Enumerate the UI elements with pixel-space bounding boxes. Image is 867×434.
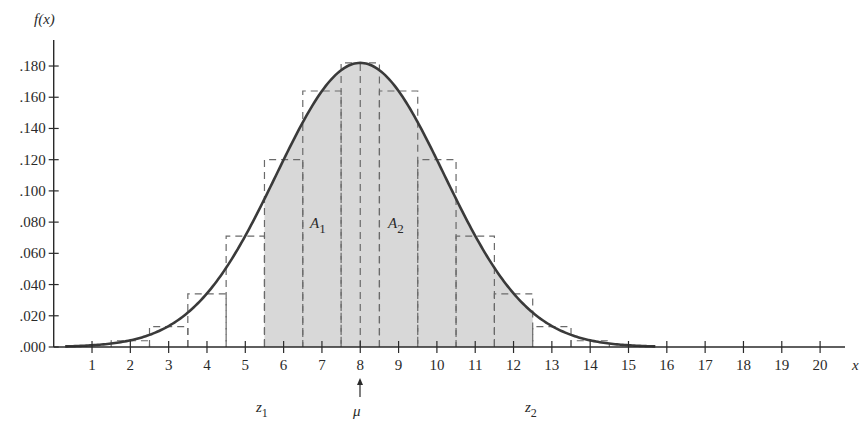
- y-tick-label: .140: [19, 120, 45, 136]
- y-tick-label: .040: [19, 277, 45, 293]
- x-tick-label: 4: [203, 357, 211, 373]
- normal-approximation-chart: .000.020.040.060.080.100.120.140.160.180…: [0, 0, 867, 434]
- x-axis-title: x: [851, 357, 859, 373]
- x-tick-label: 8: [357, 357, 365, 373]
- mu-label: μ: [352, 403, 361, 419]
- y-tick-label: .020: [19, 308, 45, 324]
- z2-label: z2: [524, 399, 537, 420]
- y-tick-label: .160: [19, 89, 45, 105]
- shaded-area-a1-a2: [264, 63, 532, 347]
- x-tick-label: 20: [813, 357, 828, 373]
- x-tick-label: 11: [468, 357, 482, 373]
- x-tick-label: 18: [736, 357, 751, 373]
- x-tick-label: 3: [165, 357, 173, 373]
- x-tick-label: 9: [395, 357, 403, 373]
- x-tick-label: 13: [544, 357, 559, 373]
- y-tick-label: .060: [19, 245, 45, 261]
- y-tick-label: .100: [19, 183, 45, 199]
- x-tick-label: 2: [127, 357, 135, 373]
- x-tick-label: 5: [242, 357, 250, 373]
- x-tick-label: 7: [318, 357, 326, 373]
- mu-arrow-icon: [357, 378, 363, 397]
- x-tick-label: 15: [621, 357, 636, 373]
- x-tick-label: 19: [774, 357, 789, 373]
- x-tick-label: 1: [88, 357, 96, 373]
- x-tick-label: 14: [583, 357, 599, 373]
- x-tick-label: 12: [506, 357, 521, 373]
- x-tick-label: 6: [280, 357, 288, 373]
- x-tick-label: 17: [698, 357, 714, 373]
- histogram-bar: [188, 294, 226, 347]
- y-axis-ticks: .000.020.040.060.080.100.120.140.160.180: [19, 58, 58, 355]
- x-tick-label: 16: [659, 357, 675, 373]
- y-tick-label: .120: [19, 152, 45, 168]
- y-tick-label: .080: [19, 214, 45, 230]
- histogram-bar: [226, 236, 264, 347]
- y-tick-label: .000: [19, 339, 45, 355]
- y-axis-title: f(x): [34, 11, 55, 28]
- x-tick-label: 10: [429, 357, 444, 373]
- y-tick-label: .180: [19, 58, 45, 74]
- z1-label: z1: [255, 399, 268, 420]
